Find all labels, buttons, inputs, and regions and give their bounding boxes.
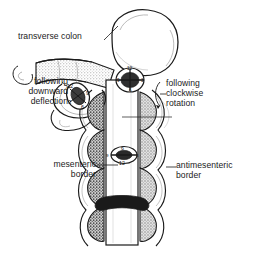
colon-upper-bulb [112, 10, 178, 76]
colon-rotation-illustration: 12 3 9 6 12 3 6 9 6 12 3 9 [0, 0, 260, 253]
clock-mark-6: 6 [121, 145, 124, 151]
clock-mark-3: 3 [141, 78, 144, 83]
clock-mark-12: 12 [127, 66, 133, 71]
clock-mark-9: 9 [86, 90, 89, 96]
clock-mark-6: 6 [129, 88, 132, 93]
clock-mark-12: 12 [119, 160, 125, 166]
anatomy-drawing: 12 3 9 6 12 3 6 9 6 12 3 9 [0, 0, 260, 253]
clock-mark-6: 6 [81, 104, 84, 110]
clock-mark-3: 3 [68, 99, 71, 105]
clock-mark-9: 9 [117, 78, 120, 83]
clock-mark-12: 12 [67, 83, 73, 89]
